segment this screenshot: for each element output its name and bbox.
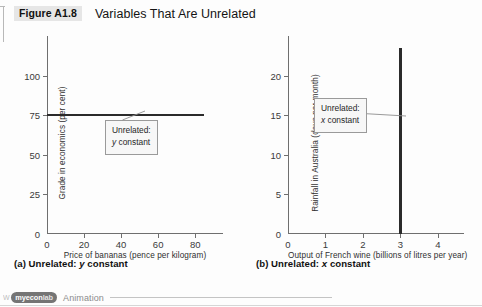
y-tick-label-1-5: 5: [276, 189, 281, 200]
callout-line-1-0: Unrelated:: [112, 125, 151, 137]
left-margin-rule-cap: [0, 6, 5, 7]
footer-watermark: W: [3, 294, 9, 301]
footer-animation-label: Animation: [63, 293, 104, 303]
callout-line-1-1: Unrelated:: [321, 103, 360, 115]
x-axis-line-a: [47, 233, 223, 234]
y-tick-label-0-25: 25: [29, 189, 40, 200]
data-series-line-1: [399, 48, 402, 234]
callout-variable-1: x: [321, 115, 325, 125]
footer-divider-line: [110, 297, 332, 298]
plot-area-b: Output of French wine (billions of litre…: [288, 36, 464, 234]
x-tick-1-2: [363, 233, 364, 238]
x-tick-0-20: [84, 233, 85, 238]
chart-panel-a: Grade in economics (per cent) Price of b…: [0, 30, 241, 255]
y-tick-label-0-50: 50: [29, 149, 40, 160]
y-tick-1-20: [284, 76, 289, 77]
x-tick-label-0-60: 60: [153, 239, 164, 250]
chart-panel-b: Rainfall in Australia (days per month) O…: [241, 30, 482, 255]
callout-line-2-1: x constant: [321, 115, 360, 127]
y-tick-1-5: [284, 194, 289, 195]
caption-panel-b: (b) Unrelated: x constant: [256, 258, 370, 269]
figure-title: Variables That Are Unrelated: [95, 7, 256, 21]
y-tick-label-1-15: 15: [270, 110, 281, 121]
caption-b-prefix: (b) Unrelated:: [256, 258, 322, 269]
badge-suffix-text: lab: [43, 293, 53, 302]
x-tick-label-1-0: 0: [285, 239, 290, 250]
caption-b-suffix: constant: [327, 258, 370, 269]
figure-container: Figure A1.8 Variables That Are Unrelated…: [0, 0, 482, 307]
y-tick-0-100: [43, 76, 48, 77]
y-tick-1-10: [284, 155, 289, 156]
x-tick-label-0-20: 20: [79, 239, 90, 250]
x-tick-0-40: [121, 233, 122, 238]
x-tick-1-1: [325, 233, 326, 238]
x-tick-label-1-4: 4: [435, 239, 440, 250]
y-tick-label-1-10: 10: [270, 149, 281, 160]
annotation-callout-1: Unrelated:x constant: [314, 98, 367, 133]
callout-line-2-0: y constant: [112, 137, 151, 149]
y-tick-0-50: [43, 155, 48, 156]
figure-number-badge: Figure A1.8: [14, 6, 82, 22]
x-tick-1-4: [438, 233, 439, 238]
y-tick-label-0-75: 75: [29, 110, 40, 121]
callout-variable-0: y: [112, 137, 116, 147]
y-tick-label-0-0: 0: [35, 229, 40, 240]
myeconlab-badge: myeconlab: [11, 292, 57, 303]
x-tick-label-0-80: 80: [190, 239, 201, 250]
caption-panel-a: (a) Unrelated: y constant: [14, 258, 128, 269]
x-tick-0-80: [195, 233, 196, 238]
data-series-line-0: [47, 114, 204, 117]
x-tick-label-0-40: 40: [116, 239, 127, 250]
caption-a-suffix: constant: [85, 258, 128, 269]
x-tick-0-60: [158, 233, 159, 238]
y-axis-line-b: [288, 36, 289, 234]
annotation-callout-0: Unrelated:y constant: [105, 120, 158, 155]
x-tick-label-1-1: 1: [323, 239, 328, 250]
y-axis-line-a: [47, 36, 48, 234]
y-tick-1-15: [284, 115, 289, 116]
badge-main-text: myecon: [15, 293, 42, 302]
y-tick-label-0-100: 100: [24, 70, 40, 81]
plot-area-a: Price of bananas (pence per kilogram) 02…: [47, 36, 223, 234]
x-tick-label-1-3: 3: [398, 239, 403, 250]
myeconlab-logo[interactable]: W myeconlab: [3, 292, 57, 303]
x-tick-label-1-2: 2: [360, 239, 365, 250]
figure-header: Figure A1.8 Variables That Are Unrelated: [14, 4, 482, 23]
y-tick-0-25: [43, 194, 48, 195]
y-tick-label-1-20: 20: [270, 70, 281, 81]
callout-leader-line-1: [288, 36, 464, 234]
x-tick-label-0-0: 0: [44, 239, 49, 250]
caption-a-prefix: (a) Unrelated:: [14, 258, 79, 269]
y-tick-label-1-0: 0: [276, 229, 281, 240]
page-bottom-rule: [0, 305, 482, 306]
